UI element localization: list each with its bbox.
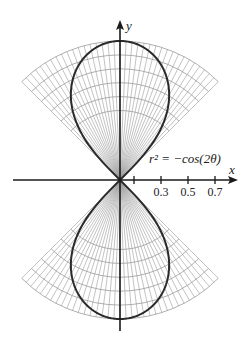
tick-label-0.5: 0.5 <box>181 185 196 199</box>
x-axis-label: x <box>228 162 235 177</box>
y-axis-label: y <box>124 18 132 33</box>
tick-label-0.3: 0.3 <box>154 185 169 199</box>
equation-label: r² = −cos(2θ) <box>149 151 221 166</box>
tick-label-0.7: 0.7 <box>208 185 223 199</box>
lemniscate-figure: 0.3 0.5 0.7 x y r² = −cos(2θ) <box>0 0 247 347</box>
